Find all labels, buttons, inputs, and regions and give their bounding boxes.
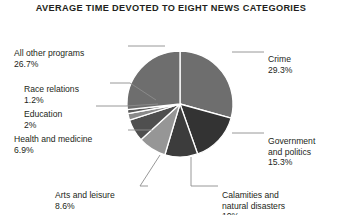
pie-slice-group [127,51,233,157]
pie-chart-figure: AVERAGE TIME DEVOTED TO EIGHT NEWS CATEG… [0,0,342,215]
slice-label-race-relations-name: Race relations [24,84,79,94]
slice-label-all-other-programs-name: All other programs [14,48,84,58]
slice-label-arts-and-leisure-value: 8.6% [55,201,155,211]
pie-slice-all-other-programs [127,51,180,110]
leader-line-calamities [191,157,218,186]
slice-label-arts-and-leisure: Arts and leisure 8.6% [55,180,155,215]
slice-label-government-and-politics: Government and politics 15.3% [268,126,342,178]
slice-label-health-and-medicine-name: Health and medicine [14,134,92,144]
slice-label-all-other-programs-value: 26.7% [14,59,124,69]
slice-label-health-and-medicine-value: 6.9% [14,145,126,155]
slice-label-arts-and-leisure-name: Arts and leisure [55,190,115,200]
slice-label-crime-value: 29.3% [268,65,340,75]
slice-label-government-and-politics-value: 15.3% [268,157,342,167]
slice-label-education-name: Education [24,109,62,119]
slice-label-calamities: Calamities and natural disasters 10% [222,180,314,215]
slice-label-calamities-name: Calamities and natural disasters [222,190,285,210]
slice-label-calamities-value: 10% [222,211,314,215]
slice-label-crime-name: Crime [268,54,291,64]
slice-label-government-and-politics-name: Government and politics [268,136,315,156]
slice-label-crime: Crime 29.3% [268,44,340,86]
slice-label-health-and-medicine: Health and medicine 6.9% [14,124,126,166]
